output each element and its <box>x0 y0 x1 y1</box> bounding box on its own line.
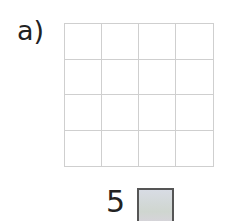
grid-cell <box>65 131 102 167</box>
grid-cell <box>65 95 102 131</box>
answer-prefix: 5 <box>106 187 125 217</box>
question-label: a) <box>17 17 44 44</box>
answer-box[interactable] <box>137 188 174 221</box>
grid-cell <box>176 24 213 60</box>
grid-cell <box>102 60 139 96</box>
grid-cell <box>139 24 176 60</box>
grid-cell <box>102 24 139 60</box>
grid-cell <box>65 60 102 96</box>
grid-cell <box>102 131 139 167</box>
grid-cell <box>176 131 213 167</box>
grid-cell <box>139 60 176 96</box>
grid-cell <box>65 24 102 60</box>
grid-cell <box>139 131 176 167</box>
grid-cell <box>139 95 176 131</box>
grid-cell <box>176 60 213 96</box>
square-grid <box>64 23 214 167</box>
grid-cell <box>102 95 139 131</box>
grid-cell <box>176 95 213 131</box>
